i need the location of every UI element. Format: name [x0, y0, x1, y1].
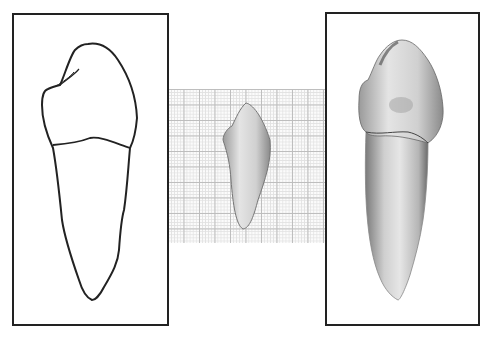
tooth-shaded-illustration — [0, 0, 491, 338]
